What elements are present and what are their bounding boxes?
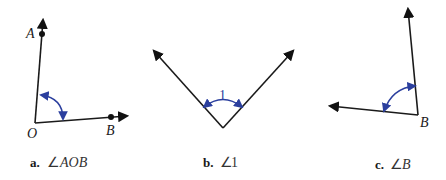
angles-diagram: A O B 1 B a. ∠ AOB b. ∠ 1 c. ∠ B [0, 0, 446, 180]
label-b-vertex: B [420, 115, 429, 130]
caption-name-b: 1 [231, 155, 238, 170]
figure-a-angle-aob: A O B [25, 20, 127, 141]
ray-up [408, 9, 418, 115]
arc-label-1: 1 [219, 88, 226, 103]
point-b [108, 114, 114, 120]
figure-c-angle-b: B [330, 9, 429, 130]
caption-a: a. ∠ AOB [30, 155, 88, 170]
caption-name-a: AOB [59, 155, 88, 170]
label-o: O [27, 126, 37, 141]
label-b: B [106, 123, 115, 138]
point-a [39, 31, 45, 37]
label-a: A [25, 26, 35, 41]
figure-b-angle-1: 1 [154, 51, 293, 128]
ray-right [223, 51, 293, 128]
caption-letter-c: c. [375, 157, 384, 172]
angle-symbol-icon: ∠ [47, 155, 60, 170]
caption-c: c. ∠ B [375, 157, 411, 172]
angle-arc-a [41, 95, 63, 119]
caption-letter-b: b. [203, 155, 213, 170]
ray-left [330, 106, 418, 115]
caption-b: b. ∠ 1 [203, 155, 238, 170]
caption-name-c: B [402, 157, 411, 172]
angle-arc-c [384, 86, 415, 111]
ray-left [154, 51, 223, 128]
caption-letter-a: a. [30, 155, 40, 170]
